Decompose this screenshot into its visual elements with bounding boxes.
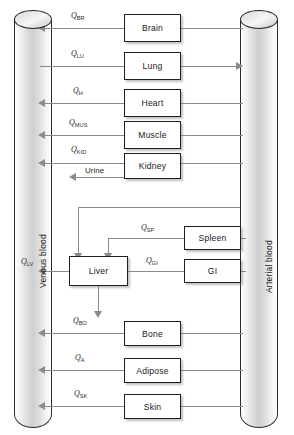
skin-venous-arrowhead [38,402,45,410]
adipose-venous-connector [40,370,124,371]
bone-venous-arrowhead [38,329,45,337]
flow-label-kidney: QKID [71,145,86,154]
heart-venous-connector [40,103,124,104]
organ-box-bone: Bone [124,321,181,346]
adipose-arterial-connector [181,370,243,371]
lung-arterial-connector [181,66,236,67]
heart-arterial-connector [181,103,243,104]
brain-venous-connector [40,28,124,29]
arterial-blood-cylinder: Arterial blood [240,10,280,428]
bile-elimination-line [98,286,99,313]
organ-box-adipose: Adipose [124,358,181,383]
flow-label-liver: QLV [21,257,33,266]
gi-arterial-connector [241,271,246,272]
flow-label-lung: QLU [71,49,84,58]
organ-box-skin: Skin [124,394,181,419]
urine-arrowhead [69,173,76,181]
venous-cylinder-body [14,20,52,428]
urine-connector [71,177,124,178]
kidney-arterial-connector [181,163,243,164]
hepatic-artery-horizontal [78,207,240,208]
flow-label-bone: QBO [73,316,87,325]
arterial-cylinder-top-cap [240,10,278,29]
organ-box-gi: GI [184,259,241,283]
venous-blood-cylinder: Venous blood [14,10,54,428]
skin-arterial-connector [181,406,243,407]
organ-box-lung: Lung [124,52,181,80]
arterial-cylinder-body [240,20,278,428]
venous-cylinder-top-cap [14,10,52,29]
flow-label-muscle: QMUS [69,118,88,127]
organ-box-spleen: Spleen [184,226,241,250]
muscle-venous-connector [40,135,124,136]
organ-box-liver: Liver [69,256,128,286]
flow-label-adipose: QA [75,353,85,362]
spleen-to-liver-horizontal [108,238,184,239]
organ-box-heart: Heart [124,89,181,117]
flow-label-heart: QH [73,86,83,95]
flow-label-brain: QBR [71,11,85,20]
flow-label-spleen: QSP [141,223,154,232]
lung-venous-connector [40,66,124,67]
arterial-blood-label: Arterial blood [264,240,274,293]
pbpk-diagram: Venous blood Arterial blood Brain QBR Lu… [0,0,294,435]
brain-arterial-connector [181,28,243,29]
spleen-arterial-connector [241,238,246,239]
skin-venous-connector [40,406,124,407]
urine-label: Urine [85,166,104,175]
adipose-venous-arrowhead [38,366,45,374]
organ-box-muscle: Muscle [124,121,181,149]
kidney-venous-arrowhead [38,159,45,167]
muscle-venous-arrowhead [38,131,45,139]
bone-venous-connector [40,333,124,334]
kidney-venous-connector [40,163,124,164]
bone-arterial-connector [181,333,243,334]
gi-to-liver-connector [128,271,184,272]
muscle-arterial-connector [181,135,243,136]
organ-box-kidney: Kidney [124,153,181,179]
flow-label-gi: QGI [146,256,158,265]
venous-blood-label: Venous blood [38,234,48,288]
organ-box-brain: Brain [124,14,181,42]
flow-label-skin: QSK [74,389,87,398]
heart-venous-arrowhead [38,99,45,107]
bile-elimination-arrowhead [94,311,102,318]
hepatic-artery-vertical [78,207,79,255]
lung-arterial-arrowhead [236,62,243,70]
